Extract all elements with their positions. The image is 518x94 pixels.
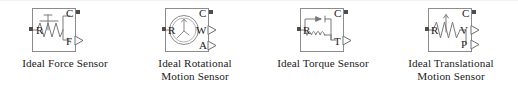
ideal-torque-sensor-icon[interactable]: R C T <box>258 0 388 56</box>
sensor-block-gallery: R C F Ideal Force Sensor <box>0 0 518 94</box>
port-label-T: T <box>334 35 341 47</box>
port-R-square <box>29 27 33 31</box>
block-caption: Ideal Translational Motion Sensor <box>382 57 518 82</box>
port-label-W: W <box>196 24 207 36</box>
port-label-C: C <box>334 7 341 19</box>
port-C-square <box>472 10 476 14</box>
port-W-triangle <box>208 26 216 35</box>
ideal-force-sensor-icon[interactable]: R C F <box>0 0 130 56</box>
port-label-R: R <box>168 24 176 36</box>
port-label-R: R <box>36 24 44 36</box>
port-C-square <box>76 10 80 14</box>
port-P-triangle <box>471 40 479 49</box>
port-label-R: R <box>431 24 439 36</box>
port-F-triangle <box>75 36 83 45</box>
caption-line-1: Ideal Rotational <box>158 57 231 69</box>
caption-line-1: Ideal Force Sensor <box>22 57 108 69</box>
port-label-F: F <box>66 35 72 47</box>
port-T-triangle <box>343 36 351 45</box>
port-label-R: R <box>303 24 311 36</box>
port-label-P: P <box>461 38 467 50</box>
block-caption: Ideal Torque Sensor <box>258 57 388 70</box>
caption-line-2: Motion Sensor <box>382 70 518 83</box>
port-label-C: C <box>66 7 73 19</box>
ideal-rotational-motion-sensor-icon[interactable]: R C W A <box>130 0 260 56</box>
port-C-square <box>344 10 348 14</box>
port-label-C: C <box>462 7 469 19</box>
port-label-V: V <box>460 24 468 36</box>
port-label-A: A <box>199 39 207 51</box>
caption-line-1: Ideal Torque Sensor <box>277 57 369 69</box>
port-C-square <box>209 10 213 14</box>
caption-line-2: Motion Sensor <box>132 70 258 83</box>
block-ideal-rotational-motion-sensor[interactable]: R C W A Ideal Rotational Motion Sensor <box>130 0 260 94</box>
port-A-triangle <box>208 41 216 50</box>
port-V-triangle <box>471 26 479 35</box>
port-R-square <box>162 27 166 31</box>
block-caption: Ideal Force Sensor <box>0 57 130 70</box>
caption-line-1: Ideal Translational <box>408 57 493 69</box>
block-ideal-torque-sensor[interactable]: R C T Ideal Torque Sensor <box>258 0 388 94</box>
port-label-C: C <box>199 7 206 19</box>
port-R-square <box>297 27 301 31</box>
block-ideal-force-sensor[interactable]: R C F Ideal Force Sensor <box>0 0 130 94</box>
block-caption: Ideal Rotational Motion Sensor <box>132 57 258 82</box>
ideal-translational-motion-sensor-icon[interactable]: R C V P <box>388 0 518 56</box>
port-R-square <box>425 27 429 31</box>
block-ideal-translational-motion-sensor[interactable]: R C V P Ideal Translational Motion Senso… <box>388 0 518 94</box>
